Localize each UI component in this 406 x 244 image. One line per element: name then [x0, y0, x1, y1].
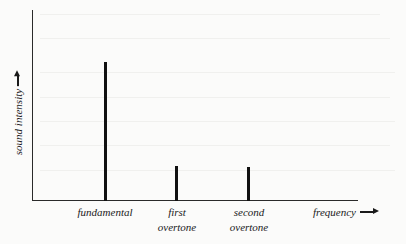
label-fundamental: fundamental: [72, 206, 138, 218]
label-fundamental-line1: fundamental: [72, 206, 138, 218]
bar-fundamental: [104, 62, 107, 201]
x-axis-label-text: frequency: [313, 206, 356, 218]
label-first-overtone: first overtone: [150, 206, 204, 233]
y-axis-label-container: sound intensity: [11, 60, 25, 170]
bleed-through-line: [40, 97, 390, 98]
spectrum-diagram: sound intensity fundamental first overto…: [0, 0, 406, 244]
arrow-up-icon: [17, 75, 18, 86]
bleed-through-line: [40, 72, 395, 73]
bar-second-overtone: [247, 167, 250, 201]
label-first-overtone-line1: first: [150, 206, 204, 218]
bleed-through-line: [40, 38, 390, 39]
bleed-through-line: [40, 121, 395, 122]
label-second-overtone-line2: overtone: [222, 221, 276, 233]
x-axis-label: frequency: [313, 206, 374, 218]
label-first-overtone-line2: overtone: [150, 221, 204, 233]
bleed-through-line: [40, 170, 395, 171]
y-axis-label: sound intensity: [12, 75, 24, 155]
bleed-through-line: [40, 145, 390, 146]
x-axis: [32, 200, 358, 201]
bleed-through-line: [40, 14, 380, 15]
arrow-right-icon: [360, 211, 374, 212]
y-axis: [32, 10, 33, 201]
y-axis-label-text: sound intensity: [12, 89, 24, 155]
label-second-overtone: second overtone: [222, 206, 276, 233]
bar-first-overtone: [175, 166, 178, 201]
label-second-overtone-line1: second: [222, 206, 276, 218]
